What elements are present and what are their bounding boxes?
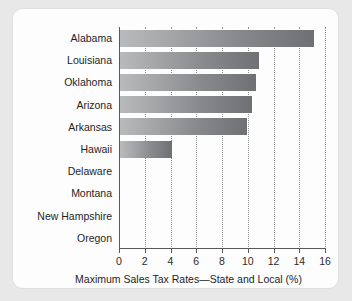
chart-panel: 0246810121416 AlabamaLouisianaOklahomaAr…: [13, 9, 338, 288]
category-label: Oklahoma: [0, 71, 112, 93]
category-label: Alabama: [0, 27, 112, 49]
bar: [120, 52, 259, 69]
bar: [120, 141, 172, 158]
category-label: Montana: [0, 182, 112, 204]
category-label: New Hampshire: [0, 205, 112, 227]
category-row: Arkansas: [119, 116, 325, 138]
category-row: Alabama: [119, 27, 325, 49]
category-label: Arizona: [0, 94, 112, 116]
gridline: [325, 27, 326, 249]
bar: [120, 118, 247, 135]
x-axis-title: Maximum Sales Tax Rates—State and Local …: [26, 273, 351, 285]
category-label: Delaware: [0, 160, 112, 182]
category-row: Louisiana: [119, 49, 325, 71]
category-row: Montana: [119, 182, 325, 204]
category-row: Oregon: [119, 227, 325, 249]
category-label: Arkansas: [0, 116, 112, 138]
category-row: Delaware: [119, 160, 325, 182]
plot-area: 0246810121416 AlabamaLouisianaOklahomaAr…: [119, 27, 325, 249]
category-row: New Hampshire: [119, 205, 325, 227]
category-label: Oregon: [0, 227, 112, 249]
x-tick-label: 16: [310, 255, 340, 268]
bar: [120, 74, 256, 91]
category-row: Arizona: [119, 94, 325, 116]
x-tick-mark: [325, 248, 326, 253]
category-label: Louisiana: [0, 49, 112, 71]
category-row: Hawaii: [119, 138, 325, 160]
chart-figure: 0246810121416 AlabamaLouisianaOklahomaAr…: [0, 0, 352, 301]
category-label: Hawaii: [0, 138, 112, 160]
bar: [120, 96, 252, 113]
category-row: Oklahoma: [119, 71, 325, 93]
bar: [120, 30, 314, 47]
